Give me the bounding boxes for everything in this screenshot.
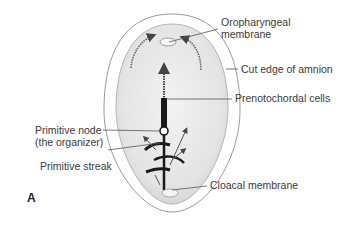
primitive-node-label: Primitive node (the organizer) [35, 124, 103, 148]
oropharyngeal-membrane-label: Oropharyngeal membrane [221, 16, 290, 40]
primitive-streak-label: Primitive streak [40, 160, 112, 172]
prenotochordal-cells-label: Prenotochordal cells [235, 92, 330, 104]
label-line: membrane [221, 28, 290, 40]
label-line: Oropharyngeal [221, 16, 290, 28]
oropharyngeal-membrane [160, 38, 176, 46]
cloacal-membrane-label: Cloacal membrane [210, 179, 298, 191]
embryo-illustration [0, 0, 344, 227]
prenotochordal-cells [161, 98, 167, 128]
label-line: (the organizer) [35, 136, 103, 148]
panel-label: A [27, 191, 36, 205]
cloacal-membrane [162, 189, 178, 197]
cut-edge-of-amnion-label: Cut edge of amnion [241, 63, 333, 75]
embryonic-disc [116, 24, 228, 204]
embryo-diagram: Oropharyngeal membrane Cut edge of amnio… [0, 0, 344, 227]
label-line: Primitive node [35, 124, 103, 136]
primitive-node [160, 127, 168, 135]
